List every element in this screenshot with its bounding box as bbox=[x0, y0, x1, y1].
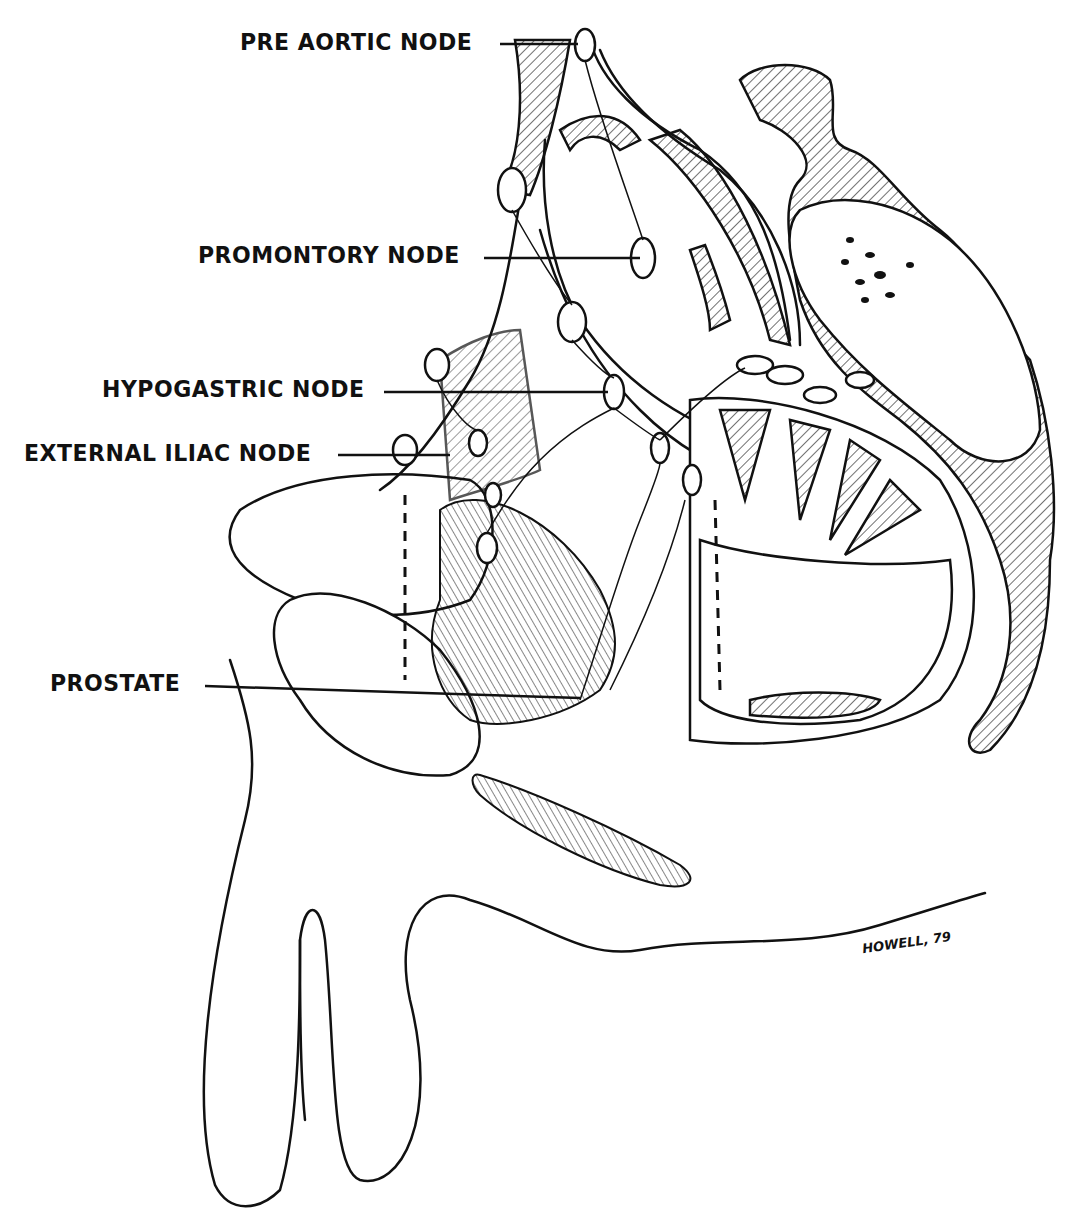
anatomical-drawing bbox=[0, 0, 1078, 1224]
pubic-bone bbox=[473, 775, 691, 887]
body-outline bbox=[204, 660, 985, 1206]
label-promontory-node: PROMONTORY NODE bbox=[198, 242, 460, 268]
rectum bbox=[690, 398, 974, 744]
label-external-iliac-node: EXTERNAL ILIAC NODE bbox=[24, 440, 311, 466]
node-external-iliac bbox=[393, 435, 417, 465]
prostate-region bbox=[432, 500, 615, 724]
label-pre-aortic-node: PRE AORTIC NODE bbox=[240, 29, 472, 55]
label-hypogastric-node: HYPOGASTRIC NODE bbox=[102, 376, 364, 402]
label-prostate: PROSTATE bbox=[50, 670, 180, 696]
